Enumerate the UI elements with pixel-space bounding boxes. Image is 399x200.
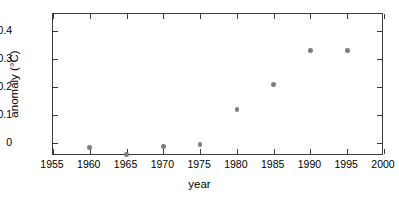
x-tick xyxy=(347,149,348,154)
data-point xyxy=(235,107,240,112)
y-tick xyxy=(377,31,382,32)
y-tick xyxy=(53,115,58,116)
data-point xyxy=(161,144,166,149)
y-tick-label: 0 xyxy=(0,137,12,148)
x-tick xyxy=(384,149,385,154)
x-tick xyxy=(90,14,91,19)
y-tick xyxy=(377,115,382,116)
data-point xyxy=(308,48,313,53)
x-tick xyxy=(200,14,201,19)
x-tick xyxy=(274,149,275,154)
x-axis-title: year xyxy=(0,178,399,190)
x-tick xyxy=(200,149,201,154)
y-tick xyxy=(53,31,58,32)
y-tick xyxy=(53,143,58,144)
x-tick xyxy=(127,14,128,19)
y-tick xyxy=(377,87,382,88)
x-tick xyxy=(163,149,164,154)
y-tick xyxy=(377,59,382,60)
x-tick xyxy=(274,14,275,19)
x-tick-label: 2000 xyxy=(361,159,399,170)
data-point xyxy=(271,82,276,87)
y-tick xyxy=(377,143,382,144)
x-tick xyxy=(163,14,164,19)
plot-area xyxy=(52,13,383,155)
x-tick xyxy=(310,14,311,19)
y-tick xyxy=(53,59,58,60)
x-tick xyxy=(237,14,238,19)
y-tick-label: 0.2 xyxy=(0,81,12,92)
x-tick xyxy=(384,14,385,19)
data-point xyxy=(87,145,92,150)
x-tick xyxy=(310,149,311,154)
y-tick xyxy=(53,87,58,88)
chart-figure: anomaly (°C) year 00.10.20.30.4195519601… xyxy=(0,0,399,200)
y-tick-label: 0.1 xyxy=(0,109,12,120)
x-tick xyxy=(53,14,54,19)
x-tick xyxy=(53,149,54,154)
data-point xyxy=(345,48,350,53)
data-point xyxy=(124,152,129,157)
x-tick xyxy=(347,14,348,19)
y-tick-label: 0.4 xyxy=(0,25,12,36)
y-tick-label: 0.3 xyxy=(0,53,12,64)
data-point xyxy=(198,142,203,147)
x-tick xyxy=(237,149,238,154)
